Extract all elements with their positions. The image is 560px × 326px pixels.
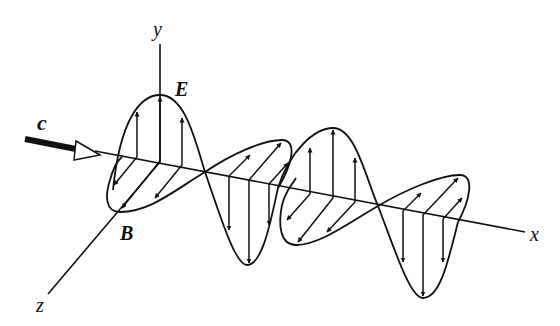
magnetic-field-arrows <box>114 143 462 242</box>
propagation-arrow-icon <box>25 139 100 160</box>
z-axis-label: z <box>35 294 44 316</box>
em-wave-diagram: y x z E B c <box>0 0 560 326</box>
propagation-speed-label: c <box>37 110 47 135</box>
y-axis-label: y <box>151 18 162 41</box>
electric-field-label: E <box>174 78 188 100</box>
magnetic-field-label: B <box>119 222 133 244</box>
magnetic-field-wave <box>107 140 469 245</box>
x-axis-label: x <box>529 223 539 245</box>
